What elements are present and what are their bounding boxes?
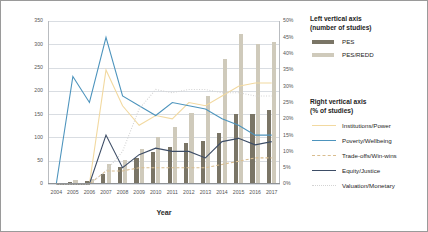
chart-figure: 050100150200250300350 0%5%10%15%20%25%30…: [0, 0, 428, 232]
right-tick-label: 10%: [283, 149, 305, 154]
left-tick-label: 150: [23, 112, 43, 117]
legend-item-valuation-monetary[interactable]: Valuation/Monetary: [312, 181, 428, 190]
legend-swatch-icon: [312, 40, 334, 44]
chart-panel: 050100150200250300350 0%5%10%15%20%25%30…: [1, 1, 301, 232]
legend-right-heading-line2: (% of studies): [310, 107, 428, 115]
legend-line-icon: [312, 155, 336, 156]
left-axis-line: [48, 21, 49, 184]
right-tick-label: 5%: [283, 165, 305, 170]
legend-swatch-icon: [312, 53, 334, 57]
line-valuation-monetary: [56, 89, 271, 184]
left-tick-label: 250: [23, 65, 43, 70]
plot-area: [48, 21, 280, 184]
x-axis-line: [48, 183, 280, 184]
legend-item-poverty-wellbeing[interactable]: Poverty/Wellbeing: [312, 136, 428, 145]
left-tick-label: 350: [23, 18, 43, 23]
legend-label: PES: [342, 37, 354, 46]
right-tick-label: 45%: [283, 35, 305, 40]
legend-item-pes[interactable]: PES: [312, 37, 428, 46]
right-tick-label: 30%: [283, 84, 305, 89]
line-trade-offs-win-wins: [56, 158, 271, 184]
chart-legend: Left vertical axis (number of studies) P…: [306, 1, 428, 232]
left-tick-label: 100: [23, 135, 43, 140]
legend-label: Institutions/Power: [342, 121, 391, 130]
legend-item-institutions-power[interactable]: Institutions/Power: [312, 121, 428, 130]
x-axis-title: Year: [48, 208, 280, 217]
right-tick-label: 50%: [283, 18, 305, 23]
left-tick-label: 300: [23, 42, 43, 47]
legend-line-icon: [312, 140, 336, 141]
right-tick-label: 15%: [283, 133, 305, 138]
right-tick-label: 35%: [283, 67, 305, 72]
right-tick-label: 40%: [283, 51, 305, 56]
right-tick-label: 20%: [283, 116, 305, 121]
legend-label: Trade-offs/Win-wins: [342, 151, 397, 160]
line-equity-justice: [56, 135, 271, 184]
legend-label: Equity/Justice: [342, 166, 380, 175]
left-tick-label: 50: [23, 158, 43, 163]
left-tick-label: 200: [23, 88, 43, 93]
right-axis-line: [279, 21, 280, 184]
legend-label: Valuation/Monetary: [342, 181, 395, 190]
legend-item-pes-redd[interactable]: PES/REDD: [312, 50, 428, 59]
legend-item-trade-offs-win-wins[interactable]: Trade-offs/Win-wins: [312, 151, 428, 160]
line-institutions-power: [56, 70, 271, 184]
legend-line-icon: [312, 125, 336, 126]
right-tick-label: 0%: [283, 181, 305, 186]
legend-left-heading-line2: (number of studies): [310, 24, 428, 32]
legend-label: PES/REDD: [342, 50, 374, 59]
left-tick-label: 0: [23, 181, 43, 186]
legend-left-heading-line1: Left vertical axis: [310, 15, 428, 23]
legend-right-heading-line1: Right vertical axis: [310, 98, 428, 106]
legend-line-icon: [312, 170, 336, 171]
legend-label: Poverty/Wellbeing: [342, 136, 392, 145]
line-poverty-wellbeing: [56, 37, 271, 184]
right-tick-label: 25%: [283, 100, 305, 105]
line-series-group: [48, 21, 280, 184]
legend-item-equity-justice[interactable]: Equity/Justice: [312, 166, 428, 175]
x-tick-label-2017: 2017: [261, 190, 283, 195]
legend-line-icon: [312, 185, 336, 186]
